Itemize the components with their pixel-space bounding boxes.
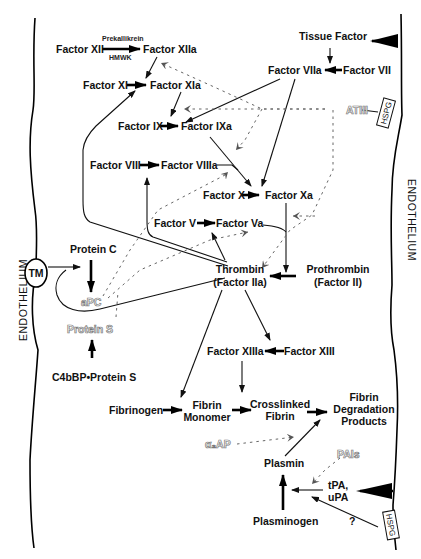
node-tpa: tPA,: [328, 479, 348, 491]
node-factor-viia: Factor VIIa: [268, 64, 322, 76]
node-thrombin-factor-iia: (Factor IIa): [213, 276, 267, 288]
node-factor-x: Factor X: [203, 189, 245, 201]
coagulation-diagram: ENDOTHELIUM ENDOTHELIUM TM HSPG HSPG: [0, 0, 421, 559]
node-prothrombin-factor-ii: (Factor II): [314, 276, 362, 288]
node-plasmin: Plasmin: [264, 457, 304, 469]
node-fibrinogen: Fibrinogen: [109, 404, 163, 416]
node-plasminogen: Plasminogen: [253, 515, 318, 527]
node-factor-xiiia: Factor XIIIa: [207, 345, 264, 357]
node-factor-va: Factor Va: [216, 217, 263, 229]
node-factor-viiia: Factor VIIIa: [161, 159, 218, 171]
node-factor-viii: Factor VIII: [90, 159, 141, 171]
node-fibrin-monomer-1: Fibrin: [192, 399, 221, 411]
node-factor-xi: Factor XI: [83, 79, 128, 91]
node-factor-xia: Factor XIa: [150, 79, 201, 91]
node-fdp-1: Fibrin: [349, 391, 378, 403]
hspg-box-top: HSPG: [377, 98, 396, 128]
node-factor-v: Factor V: [154, 217, 196, 229]
node-apc: aPC: [81, 296, 102, 308]
node-thrombin: Thrombin: [216, 263, 264, 275]
node-prekallikrein: Prekallikrein: [102, 35, 144, 42]
node-factor-ixa: Factor IXa: [181, 120, 232, 132]
node-protein-s: Protein S: [67, 323, 113, 335]
node-factor-xa: Factor Xa: [265, 189, 313, 201]
node-question: ?: [349, 515, 355, 527]
node-fdp-3: Products: [341, 415, 387, 427]
tm-label: TM: [28, 267, 43, 279]
node-crosslinked-fibrin-1: Crosslinked: [250, 398, 310, 410]
node-factor-ix: Factor IX: [118, 120, 163, 132]
node-alpha2ap: α₂AP: [205, 438, 231, 450]
node-protein-c: Protein C: [70, 243, 117, 255]
node-c4bbp-protein-s: C4bBP•Protein S: [52, 371, 136, 383]
right-endothelium-wall: [391, 14, 402, 550]
node-factor-xii: Factor XII: [56, 43, 104, 55]
node-factor-xiii: Factor XIII: [284, 345, 335, 357]
node-hmwk: HMWK: [109, 54, 132, 61]
node-factor-xiia: Factor XIIa: [143, 43, 197, 55]
node-fdp-2: Degradation: [333, 403, 394, 415]
node-fibrin-monomer-2: Monomer: [183, 411, 230, 423]
node-atiii: ATIII: [346, 104, 368, 116]
hspg-box-bottom: HSPG: [383, 510, 400, 540]
node-pais: PAIs: [337, 448, 360, 460]
right-endothelium-label: ENDOTHELIUM: [406, 179, 418, 261]
node-factor-vii: Factor VII: [343, 64, 391, 76]
node-prothrombin: Prothrombin: [307, 263, 370, 275]
node-tissue-factor: Tissue Factor: [299, 30, 367, 42]
node-crosslinked-fibrin-2: Fibrin: [265, 410, 294, 422]
node-upa: uPA: [328, 491, 349, 503]
